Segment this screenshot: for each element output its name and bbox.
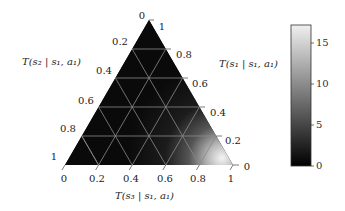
right-tick-3: 0.4 <box>210 107 226 118</box>
bottom-tick-2: 0.4 <box>123 173 139 184</box>
left-tick-3: 0.6 <box>78 95 94 106</box>
bottom-tick-0: 0 <box>61 173 67 184</box>
bottom-axis-label: T(s₃ | s₁, a₁) <box>115 190 174 202</box>
left-tick-1: 0.2 <box>112 36 128 47</box>
bottom-tick-4: 0.8 <box>190 173 206 184</box>
bottom-tick-3: 0.6 <box>157 173 173 184</box>
left-axis-label: T(s₂ | s₁, a₁) <box>22 56 81 68</box>
right-tick-2: 0.6 <box>192 78 208 89</box>
bottom-tick-1: 0.2 <box>89 173 105 184</box>
left-tick-0: 0 <box>139 10 145 21</box>
colorbar <box>291 25 311 166</box>
colorbar-tick-15: 15 <box>316 37 329 48</box>
ternary-chart: 0 0.2 0.4 0.6 0.8 1 0 0.2 0.4 0.6 0.8 1 … <box>0 0 345 211</box>
right-tick-5: 0 <box>244 161 250 172</box>
right-tick-4: 0.2 <box>225 135 241 146</box>
left-tick-2: 0.4 <box>96 65 112 76</box>
colorbar-tick-5: 5 <box>316 119 322 130</box>
right-axis-label: T(s₁ | s₁, a₁) <box>219 58 278 70</box>
colorbar-tick-0: 0 <box>316 160 322 171</box>
density-highlight <box>65 20 233 165</box>
left-tick-4: 0.8 <box>60 123 76 134</box>
left-tick-5: 1 <box>51 151 57 162</box>
right-tick-1: 0.8 <box>176 49 192 60</box>
bottom-tick-5: 1 <box>228 173 234 184</box>
right-tick-0: 1 <box>159 21 165 32</box>
colorbar-tick-10: 10 <box>316 78 329 89</box>
